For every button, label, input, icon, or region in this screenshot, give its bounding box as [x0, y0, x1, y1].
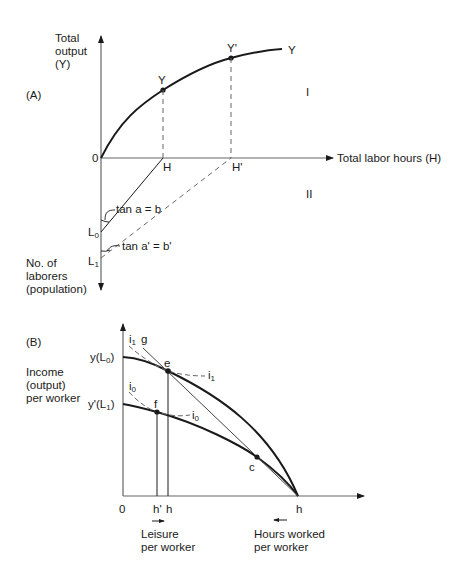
- ray-l0-h: [101, 158, 163, 232]
- neg-y-axis-label-line1: No. of: [26, 257, 57, 270]
- angle-a-label: tan a = b: [116, 203, 161, 216]
- label-point-y: Y: [158, 74, 166, 87]
- panel-a-tag: (A): [26, 89, 41, 102]
- hours-label-line1: Hours worked: [254, 528, 325, 541]
- label-i1-top: i1: [129, 333, 136, 349]
- label-l1: L1: [88, 255, 99, 271]
- leisure-label-line2: per worker: [141, 541, 195, 554]
- label-point-y-prime: Y': [227, 42, 237, 55]
- label-l0: L0: [88, 226, 99, 242]
- income-label-line3: per worker: [26, 392, 80, 405]
- label-i0-top: i0: [129, 380, 136, 396]
- hours-label-line2: per worker: [254, 541, 308, 554]
- panel-b: [123, 324, 364, 521]
- label-y-l0: y(L0): [90, 351, 114, 367]
- label-f: f: [154, 398, 157, 411]
- angle-leader-a: [105, 210, 115, 220]
- quadrant-ii: II: [306, 188, 312, 201]
- neg-y-axis-label-line3: (population): [26, 283, 87, 296]
- label-i0-right: i0: [192, 409, 199, 425]
- income-label-line1: Income: [26, 366, 64, 379]
- quadrant-i: I: [306, 86, 309, 99]
- tick-h: H: [163, 161, 171, 174]
- y-axis-label-line2: output: [55, 45, 87, 58]
- label-y-l1: y'(L1): [88, 398, 114, 414]
- label-i1-right: i1: [208, 369, 215, 385]
- x-axis-label: Total labor hours (H): [337, 152, 441, 165]
- tick-h-prime-b: h': [153, 503, 162, 516]
- y-axis-label-line1: Total: [55, 32, 79, 45]
- leisure-label-line1: Leisure: [141, 528, 179, 541]
- panel-b-tag: (B): [26, 336, 41, 349]
- point-c: [254, 454, 259, 459]
- label-curve-y: Y: [288, 44, 296, 57]
- angle-arc-a-prime: [101, 250, 110, 251]
- neg-y-axis-label-line2: laborers: [26, 270, 68, 283]
- tick-h-end: h: [296, 503, 302, 516]
- label-e: e: [164, 357, 170, 370]
- income-label-line2: (output): [26, 379, 66, 392]
- tick-h-b: h: [166, 503, 172, 516]
- y-axis-label-line3: (Y): [55, 58, 70, 71]
- label-c: c: [249, 461, 255, 474]
- angle-a-prime-label: tan a' = b': [122, 240, 171, 253]
- tick-h-prime: H': [232, 161, 243, 174]
- label-g: g: [141, 333, 147, 346]
- diagram-canvas: [0, 0, 464, 563]
- angle-arc-a: [101, 220, 109, 222]
- panel-b-origin: 0: [119, 503, 125, 516]
- panel-a-origin: 0: [92, 152, 98, 165]
- production-curve: [101, 49, 282, 158]
